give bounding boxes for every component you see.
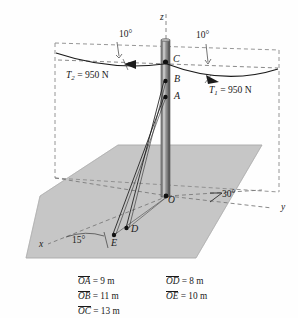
- measure-OC-segment: OC: [78, 306, 91, 317]
- measure-OA-equals: =: [93, 276, 98, 286]
- z-axis-label: z: [160, 13, 164, 23]
- measure-OE-equals: =: [181, 291, 186, 301]
- measure-OA-row: OA = 9 m: [78, 276, 115, 287]
- measure-OE-segment: OE: [166, 291, 178, 302]
- pole-top-cap: [161, 39, 170, 42]
- measure-OB-segment: OB: [78, 291, 90, 302]
- angle-15-label: 15°: [72, 236, 85, 246]
- tension-1-label: T1 = 950 N: [209, 85, 252, 97]
- y-axis-label: y: [281, 203, 285, 213]
- angle-left-10-leader: [117, 42, 119, 56]
- measure-OA-segment: OA: [78, 276, 90, 287]
- dot-D: [124, 226, 128, 230]
- measure-OC-equals: =: [93, 306, 98, 316]
- point-O-label: O: [168, 196, 175, 206]
- point-B-label: B: [174, 74, 180, 84]
- measure-OE-value: 10 m: [188, 291, 207, 301]
- angle-30-value: 30°: [222, 189, 235, 199]
- angle-right-10-label: 10°: [196, 31, 209, 41]
- x-axis-label: x: [39, 240, 43, 250]
- dot-A: [163, 95, 167, 99]
- measure-OE-row: OE = 10 m: [166, 291, 207, 302]
- measure-OC-row: OC = 13 m: [78, 306, 120, 317]
- tension-2-value: 950: [85, 69, 99, 80]
- dot-B: [163, 79, 167, 83]
- measure-OD-row: OD = 8 m: [166, 276, 204, 287]
- measure-OB-equals: =: [93, 291, 98, 301]
- measure-OD-equals: =: [182, 276, 187, 286]
- tension-1-value: 950: [228, 84, 242, 95]
- pole-cable-diagram: [0, 0, 298, 318]
- angle-left-10-label: 10°: [119, 30, 132, 40]
- pole-shadow: [168, 40, 170, 197]
- measure-OA-value: 9 m: [100, 276, 114, 286]
- tension-2-unit: N: [102, 69, 109, 80]
- angle-30-label: 30°: [222, 190, 235, 200]
- measure-OB-row: OB = 11 m: [78, 291, 119, 302]
- point-E-label: E: [111, 238, 117, 248]
- tension-2-label: T2 = 950 N: [66, 70, 109, 82]
- dot-C: [163, 59, 168, 64]
- measure-OC-value: 13 m: [101, 306, 120, 316]
- tension-2-equals: =: [75, 69, 85, 80]
- measure-OB-value: 11 m: [100, 291, 119, 301]
- tension-1-equals: =: [218, 84, 228, 95]
- point-D-label: D: [131, 224, 138, 234]
- angle-right-10-leader: [206, 44, 208, 62]
- ground-plane: [26, 145, 262, 258]
- point-A-label: A: [174, 91, 180, 101]
- measure-OD-value: 8 m: [189, 276, 203, 286]
- cable-T2: [56, 53, 164, 66]
- point-C-label: C: [173, 54, 180, 64]
- measure-OD-segment: OD: [166, 276, 179, 287]
- tension-1-unit: N: [245, 84, 252, 95]
